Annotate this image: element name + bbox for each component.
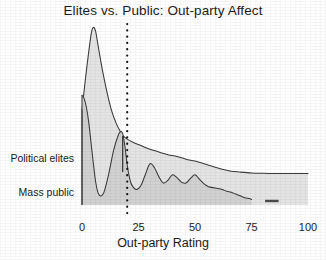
x-tick-label-100: 100 [293,221,323,233]
series-label-mass-public: Mass public [2,186,74,198]
chart-title: Elites vs. Public: Out-party Affect [0,3,326,18]
series-label-political-elites: Political elites [2,152,74,164]
x-tick-label-50: 50 [180,221,210,233]
x-tick-label-25: 25 [124,221,154,233]
chart-plot-area [0,0,326,260]
x-tick-label-0: 0 [67,221,97,233]
x-tick-label-75: 75 [237,221,267,233]
chart-figure: Elites vs. Public: Out-party Affect Poli… [0,0,326,260]
x-axis-title: Out-party Rating [0,236,326,250]
